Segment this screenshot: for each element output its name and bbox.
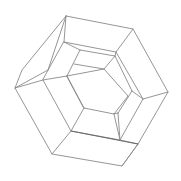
outer-frame [15,16,168,166]
hexagonal-frame-wireframe [0,0,181,181]
edge [67,50,80,76]
edge [115,52,116,56]
edge [71,131,138,144]
edge [115,56,132,91]
connector-edges [15,16,168,166]
edge [132,91,143,99]
diagram-canvas [0,0,181,181]
middle-outline [43,42,143,140]
edge [74,64,104,69]
edge [116,29,133,52]
edge [104,56,115,69]
edge [118,91,132,113]
edge [122,144,138,166]
edge [43,76,67,80]
inner-outline [67,69,128,114]
edge [71,108,84,131]
edge [15,80,43,88]
edge [67,76,84,108]
edge [52,131,71,154]
middle-hexagon [43,42,143,144]
outer-outline [15,16,168,166]
